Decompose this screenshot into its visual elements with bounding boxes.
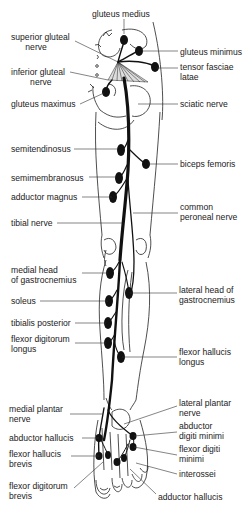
muscle-dot-semimembranosus	[115, 172, 123, 184]
muscle-dot-tensor-fasciae-latae	[151, 62, 159, 72]
label-abductor-digiti-minimi: abductor digiti minimi	[179, 421, 224, 441]
muscle-dot-flexor-digitorum-brevis	[114, 458, 121, 466]
label-interossei: interossei	[179, 469, 216, 479]
label-flexor-hallucis-longus: flexor hallucis longus	[179, 347, 231, 367]
muscle-dot-interossei	[121, 454, 127, 462]
label-tibial-nerve: tibial nerve	[11, 218, 53, 228]
muscle-dot-gluteus-minimus	[135, 46, 143, 56]
label-gluteus-minimus: gluteus minimus	[180, 47, 242, 57]
label-tibialis-posterior: tibialis posterior	[11, 318, 71, 328]
muscle-dot-gluteus-medius	[120, 35, 128, 45]
label-flexor-digitorum-brevis: flexor digitorum brevis	[9, 481, 68, 501]
label-flexor-hallucis-brevis: flexor hallucis brevis	[9, 449, 61, 469]
label-adductor-magnus: adductor magnus	[11, 192, 77, 202]
muscle-dot-flexor-hallucis-brevis-2	[105, 451, 111, 459]
label-tensor-fasciae-latae: tensor fasciae latae	[180, 62, 234, 82]
label-medial-plantar-nerve: medial plantar nerve	[9, 404, 63, 424]
label-biceps-femoris: biceps femoris	[180, 159, 235, 169]
nerve-tree	[99, 42, 154, 462]
label-common-peroneal-nerve: common peroneal nerve	[180, 202, 237, 222]
label-lateral-plantar-nerve: lateral plantar nerve	[179, 398, 231, 418]
leader-line-gluteus-maximus	[80, 93, 104, 104]
leader-line-adductor-hallucis	[130, 469, 156, 494]
leader-line-lateral-plantar-nerve	[124, 406, 177, 424]
label-lateral-head-gastrocnemius: lateral head of gastrocnemius	[179, 285, 235, 305]
label-gluteus-maximus: gluteus maximus	[11, 99, 75, 109]
label-superior-gluteal-nerve: superior gluteal nerve	[11, 32, 70, 52]
leader-line-inferior-gluteal-nerve	[70, 72, 108, 80]
label-flexor-digiti-minimi: flexor digiti minimi	[179, 444, 220, 464]
leader-line-flexor-digiti-minimi	[134, 447, 177, 455]
label-inferior-gluteal-nerve: inferior gluteal nerve	[11, 67, 65, 87]
label-semitendinosus: semitendinosus	[11, 144, 71, 154]
label-soleus: soleus	[11, 296, 36, 306]
leader-line-abductor-digiti-minimi	[134, 432, 177, 436]
leader-line-flexor-digitorum-brevis	[74, 462, 103, 488]
label-semimembranosus: semimembranosus	[11, 173, 84, 183]
muscle-dot-semitendinosus	[117, 144, 125, 156]
leader-line-interossei	[136, 463, 177, 474]
label-sciatic-nerve: sciatic nerve	[180, 99, 228, 109]
label-abductor-hallucis: abductor hallucis	[9, 433, 74, 443]
label-medial-head-gastrocnemius: medial head of gastrocnemius	[11, 265, 76, 285]
muscle-dot-gluteus-maximus	[102, 87, 110, 97]
label-gluteus-medius: gluteus medius	[92, 9, 150, 19]
label-adductor-hallucis: adductor hallucis	[158, 492, 223, 502]
gluteal-fan	[108, 62, 148, 82]
label-flexor-digitorum-longus: flexor digitorum longus	[11, 334, 70, 354]
